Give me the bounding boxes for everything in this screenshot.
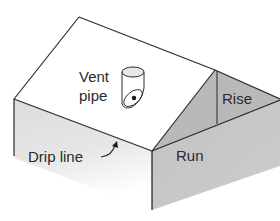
rise-label: Rise bbox=[222, 90, 252, 107]
run-label: Run bbox=[176, 147, 204, 164]
roof-diagram: Vent pipe Rise Run Drip line bbox=[0, 0, 280, 221]
vent-hole-dot bbox=[132, 96, 136, 100]
vent-label-line1: Vent bbox=[79, 68, 110, 85]
vent-label-line2: pipe bbox=[79, 87, 107, 104]
drip-line-label: Drip line bbox=[28, 148, 83, 165]
